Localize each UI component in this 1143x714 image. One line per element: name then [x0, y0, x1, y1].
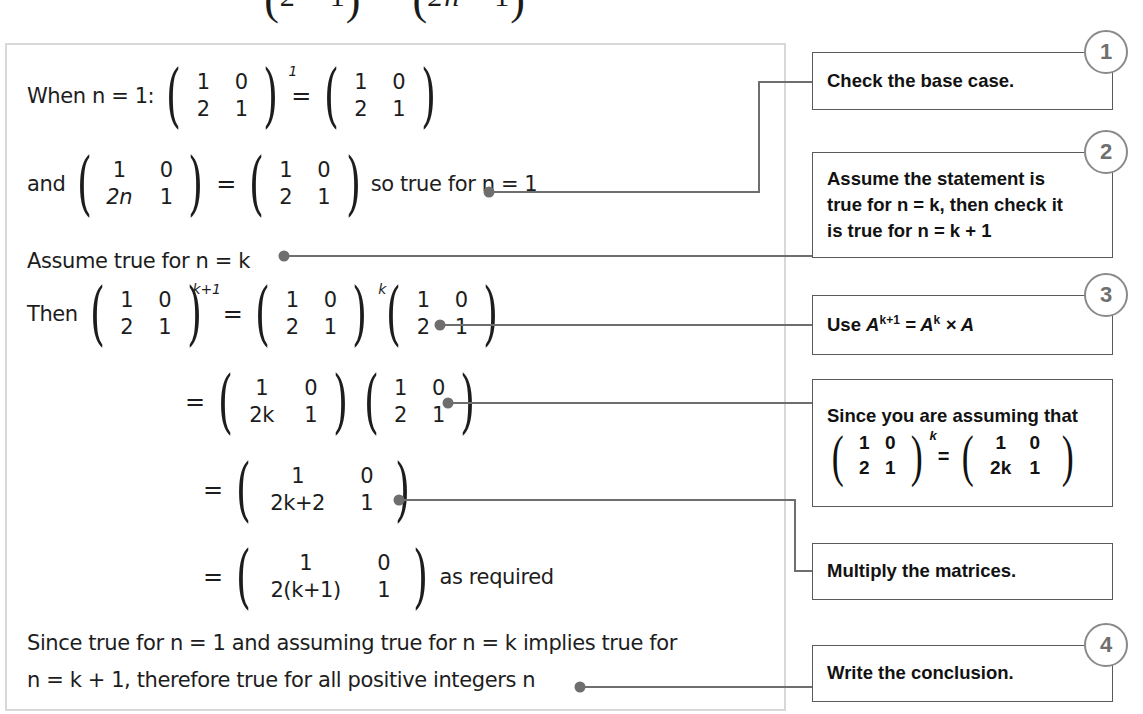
paren-open-icon: ( — [90, 292, 105, 335]
l4c-r1c2: 0 — [448, 287, 474, 314]
line5-matrix-b: ( 10 21 ) — [358, 375, 482, 429]
cutoff-right-r1c2: 1 — [494, 0, 510, 12]
l5b-r2c1: 2 — [387, 402, 413, 429]
l4b-r2c2: 1 — [317, 314, 343, 341]
l1b-r1c1: 1 — [348, 69, 374, 96]
l7a-r1c1: 1 — [260, 550, 352, 577]
paren-open-icon: ( — [324, 74, 339, 117]
line2-equals: = — [216, 170, 236, 198]
line1-matrix-b: ( 10 21 ) — [318, 69, 442, 123]
l1a-exponent: 1 — [288, 63, 297, 79]
paren-close-icon: ) — [188, 162, 203, 205]
proof-line-multiplied: = ( 10 2k+21 ) — [198, 463, 418, 517]
paren-open-icon: ( — [413, 0, 429, 24]
l5b-r1c1: 1 — [387, 375, 413, 402]
paren-open-icon: ( — [166, 74, 181, 117]
l5b-r1c2: 0 — [425, 375, 451, 402]
l2b-r2c1: 2 — [273, 184, 299, 211]
paren-close-icon: ) — [483, 292, 498, 335]
note-badge-1: 1 — [1084, 30, 1128, 74]
ns-a-r1c2: 0 — [877, 431, 903, 456]
l5a-r1c2: 0 — [298, 375, 324, 402]
ns-b-r2c2: 1 — [1020, 456, 1050, 481]
paren-open-icon: ( — [236, 555, 251, 598]
line4-lead: Then — [27, 302, 78, 326]
note-2-line-2: true for n = k, then check it — [827, 192, 1098, 218]
l5a-r1c1: 1 — [242, 375, 282, 402]
paren-open-icon: ( — [386, 292, 401, 335]
line1-lead: When n = 1: — [27, 84, 154, 108]
l1a-r1c1: 1 — [190, 69, 216, 96]
note-conclusion[interactable]: Write the conclusion. — [812, 645, 1113, 702]
note-3-prefix: Use — [827, 314, 866, 335]
l4b-r1c1: 1 — [279, 287, 305, 314]
l7a-r1c2: 0 — [364, 550, 404, 577]
l4c-r1c1: 1 — [410, 287, 436, 314]
paren-close-icon: ) — [187, 292, 202, 335]
proof-line-then: Then ( 10 21 ) k+1 = ( 10 21 ) k ( 10 21 — [27, 287, 506, 341]
ns-a-r2c1: 2 — [851, 456, 877, 481]
l5b-r2c2: 1 — [425, 402, 451, 429]
note-badge-3: 3 — [1084, 273, 1128, 317]
line4-matrix-c: ( 10 21 ) — [380, 287, 504, 341]
proof-line-substitute: = ( 10 2k1 ) ( 10 21 ) — [180, 375, 483, 429]
paren-open-icon: ( — [236, 468, 251, 511]
l4a-r1c2: 0 — [152, 287, 178, 314]
paren-close-icon: ) — [1061, 439, 1073, 474]
cutoff-left-r1c2: 1 — [330, 0, 346, 12]
ns-b-r1c2: 0 — [1020, 431, 1050, 456]
l2a-r1c1: 1 — [101, 157, 137, 184]
line6-matrix-a: ( 10 2k+21 ) — [230, 463, 416, 517]
paren-open-icon: ( — [364, 380, 379, 423]
paren-close-icon: ) — [421, 74, 436, 117]
l2b-r2c2: 1 — [311, 184, 337, 211]
note-badge-4: 4 — [1084, 623, 1128, 667]
note-power-rule[interactable]: Use Ak+1 = Ak × A — [812, 295, 1113, 355]
paren-close-icon: ) — [395, 468, 410, 511]
note-2-line-1: Assume the statement is — [827, 166, 1098, 192]
l4a-r1c1: 1 — [114, 287, 140, 314]
cutoff-right-r1c1: 2n — [428, 0, 460, 12]
line6-equals: = — [203, 476, 223, 504]
l4c-r2c1: 2 — [410, 314, 436, 341]
l5a-r2c1: 2k — [242, 402, 282, 429]
line1-equals: = — [291, 82, 311, 110]
conclusion-text-line-2: n = k + 1, therefore true for all positi… — [27, 662, 677, 699]
paren-open-icon: ( — [255, 292, 270, 335]
paren-close-icon: ) — [346, 0, 362, 24]
paren-open-icon: ( — [77, 162, 92, 205]
line4-matrix-b: ( 10 21 ) k — [249, 287, 373, 341]
l6a-r1c1: 1 — [260, 463, 336, 490]
note-multiply[interactable]: Multiply the matrices. — [812, 543, 1113, 600]
l2b-r1c1: 1 — [273, 157, 299, 184]
paren-close-icon: ) — [346, 162, 361, 205]
note-multiply-text: Multiply the matrices. — [827, 558, 1098, 584]
line7-equals: = — [203, 563, 223, 591]
l2a-r1c2: 0 — [153, 157, 179, 184]
conclusion-text-line-1: Since true for n = 1 and assuming true f… — [27, 625, 677, 662]
proof-line-base-case: When n = 1: ( 10 21 ) 1 = ( 10 21 ) — [27, 69, 444, 123]
l6a-r2c1: 2k+2 — [260, 490, 336, 517]
l6a-r1c2: 0 — [348, 463, 386, 490]
l2a-r2c1: 2n — [101, 184, 137, 211]
l2a-r2c2: 1 — [153, 184, 179, 211]
note-since-matrix-b: ( 10 2k1 ) — [958, 431, 1077, 480]
l4a-r2c1: 2 — [114, 314, 140, 341]
note-since-assume[interactable]: Since you are assuming that ( 10 21 ) k … — [812, 379, 1113, 507]
l2b-r1c2: 0 — [311, 157, 337, 184]
note-assume[interactable]: Assume the statement is true for n = k, … — [812, 152, 1113, 258]
l4a-exponent: k+1 — [192, 281, 220, 297]
note-since-matrix-a: ( 10 21 ) k — [828, 431, 927, 480]
l1a-r2c1: 2 — [190, 96, 216, 123]
l1b-r1c2: 0 — [386, 69, 412, 96]
ns-b-r1c1: 1 — [982, 431, 1020, 456]
note-2-line-3: is true for n = k + 1 — [827, 218, 1098, 244]
l4a-r2c2: 1 — [152, 314, 178, 341]
top-cutoff-matrix-fragment: (21) (2n1) — [0, 0, 790, 16]
paren-close-icon: ) — [352, 292, 367, 335]
l1a-r2c2: 1 — [228, 96, 254, 123]
paren-close-icon: ) — [333, 380, 348, 423]
line4-equals: = — [223, 300, 243, 328]
l4b-r1c2: 0 — [317, 287, 343, 314]
note-base-case[interactable]: Check the base case. — [812, 52, 1113, 110]
